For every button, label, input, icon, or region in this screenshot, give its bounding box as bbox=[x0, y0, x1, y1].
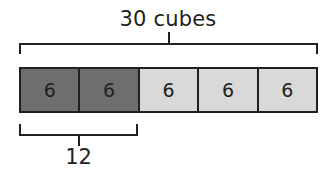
tape-cell: 6 bbox=[138, 67, 197, 113]
tape-cell-value: 6 bbox=[44, 81, 56, 100]
total-bracket-bar bbox=[19, 43, 318, 45]
tape-diagram: 30 cubes 6 6 6 6 6 12 bbox=[0, 0, 334, 177]
tape-cell-value: 6 bbox=[103, 81, 115, 100]
tape-cell: 6 bbox=[197, 67, 256, 113]
tape-cell: 6 bbox=[78, 67, 137, 113]
total-bracket-left-tick bbox=[19, 43, 21, 54]
total-label: 30 cubes bbox=[0, 7, 334, 31]
total-bracket bbox=[19, 43, 318, 55]
part-bracket-left-tick bbox=[19, 124, 21, 136]
tape-bar: 6 6 6 6 6 bbox=[19, 67, 318, 113]
part-bracket bbox=[19, 124, 138, 136]
total-label-text: 30 cubes bbox=[119, 7, 216, 31]
part-label: 12 bbox=[19, 145, 138, 169]
tape-cell: 6 bbox=[257, 67, 318, 113]
total-bracket-stem bbox=[168, 32, 170, 43]
tape-cell-value: 6 bbox=[162, 81, 174, 100]
tape-cell-value: 6 bbox=[222, 81, 234, 100]
tape-cell: 6 bbox=[19, 67, 78, 113]
total-bracket-right-tick bbox=[316, 43, 318, 54]
part-bracket-right-tick bbox=[136, 124, 138, 136]
tape-cell-value: 6 bbox=[281, 81, 293, 100]
